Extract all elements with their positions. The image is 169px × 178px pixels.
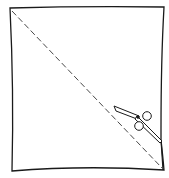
paper-cutting-diagram: [0, 0, 169, 178]
dashed-diagonal: [12, 11, 162, 168]
scissors-icon: [114, 106, 162, 143]
paper-square: [10, 7, 164, 171]
